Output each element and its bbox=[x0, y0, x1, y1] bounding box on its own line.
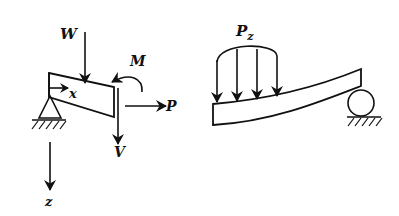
deflected-beam bbox=[213, 69, 361, 125]
roller-support bbox=[348, 90, 374, 116]
label-x: x bbox=[68, 86, 77, 101]
right-figure-labels: Pz bbox=[235, 22, 254, 43]
beam-segment bbox=[49, 73, 114, 117]
load-envelope bbox=[217, 46, 277, 62]
moment-arrow bbox=[112, 77, 142, 92]
label-pz: Pz bbox=[235, 22, 254, 43]
label-z: z bbox=[44, 194, 53, 209]
ground-hatching bbox=[32, 121, 66, 129]
label-v: V bbox=[114, 144, 127, 160]
label-pz-subscript: z bbox=[246, 30, 254, 43]
label-p: P bbox=[165, 98, 177, 114]
label-m: M bbox=[129, 53, 146, 69]
roller-ground-hatching bbox=[348, 118, 382, 126]
left-figure bbox=[32, 32, 166, 190]
label-w: W bbox=[60, 25, 79, 43]
left-figure-labels: W M P V x z bbox=[44, 25, 177, 209]
label-pz-main: P bbox=[235, 22, 248, 40]
beam-diagram: W M P V x z Pz bbox=[0, 0, 399, 216]
right-figure bbox=[213, 46, 382, 126]
